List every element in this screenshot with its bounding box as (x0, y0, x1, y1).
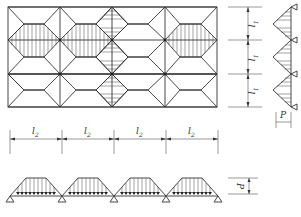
dim-l1-middle: l1 (247, 55, 259, 62)
dim-l2-2: l2 (84, 126, 91, 138)
dim-l1-top: l1 (247, 21, 259, 28)
dim-l1-bottom: l1 (247, 88, 259, 95)
dim-l2-3: l2 (136, 126, 143, 138)
dim-l2-1: l2 (32, 126, 39, 138)
dim-l2-4: l2 (188, 126, 195, 138)
